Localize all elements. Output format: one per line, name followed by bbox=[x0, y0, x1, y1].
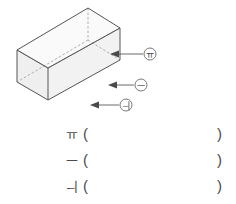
callout-c: ㅢ bbox=[90, 99, 132, 111]
callout-c-label: ㅢ bbox=[122, 101, 130, 111]
answer-marker-c: ㅢ bbox=[66, 176, 81, 195]
paren-open-b: ( bbox=[81, 151, 88, 168]
paren-open-c: ( bbox=[81, 177, 88, 194]
answer-blank-c[interactable] bbox=[88, 178, 217, 192]
answer-row: ㅡ ( ) bbox=[66, 146, 224, 172]
answer-blank-a[interactable] bbox=[88, 126, 217, 140]
callout-a-label: ㅠ bbox=[146, 50, 154, 60]
answer-row: ㅢ ( ) bbox=[66, 172, 224, 198]
answer-marker-a: ㅠ bbox=[66, 124, 81, 143]
callout-b: ㅡ bbox=[108, 79, 147, 91]
paren-open-a: ( bbox=[81, 125, 88, 142]
callout-b-label: ㅡ bbox=[137, 81, 145, 91]
answer-blank-b[interactable] bbox=[88, 152, 217, 166]
figure-area: ㅠ ㅡ ㅢ bbox=[0, 0, 236, 120]
callout-c-arrowhead bbox=[90, 102, 99, 109]
answer-marker-b: ㅡ bbox=[66, 150, 81, 169]
paren-close-c: ) bbox=[217, 177, 224, 194]
answer-list: ㅠ ( ) ㅡ ( ) ㅢ ( ) bbox=[0, 120, 236, 204]
callout-b-arrowhead bbox=[108, 82, 117, 89]
paren-close-a: ) bbox=[217, 125, 224, 142]
paren-close-b: ) bbox=[217, 151, 224, 168]
cuboid-diagram: ㅠ ㅡ ㅢ bbox=[0, 0, 236, 120]
answer-row: ㅠ ( ) bbox=[66, 120, 224, 146]
